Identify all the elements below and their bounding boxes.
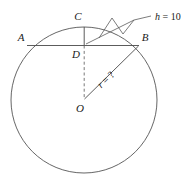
label-point-d: D — [71, 48, 80, 60]
height-leader-zigzag — [86, 18, 134, 44]
label-point-a: A — [17, 31, 25, 43]
label-point-c: C — [74, 10, 82, 22]
label-point-o: O — [76, 102, 84, 114]
label-radius-r: r = ? — [95, 69, 117, 90]
label-height-h: h = 10 — [155, 11, 181, 22]
circle-geometry-diagram: A B C D O h = 10 r = ? — [0, 0, 184, 185]
geometry-canvas: A B C D O h = 10 r = ? — [0, 0, 184, 185]
label-point-b: B — [142, 31, 149, 43]
height-leader-tail — [134, 16, 151, 20]
label-height-value: = 10 — [160, 11, 181, 22]
